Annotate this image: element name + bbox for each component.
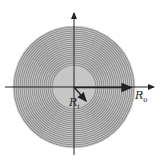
diagram-canvas: Ri Ro [0,0,168,160]
inner-radius-label: Ri [69,96,80,111]
outer-radius-label: Ro [135,89,148,104]
spiral-disk-figure [0,0,168,160]
